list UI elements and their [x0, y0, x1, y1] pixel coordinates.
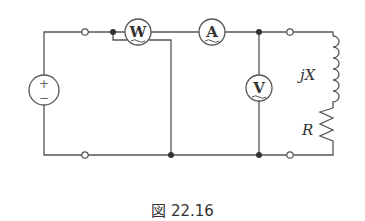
- inductor-jx: [333, 36, 339, 108]
- source-plus: +: [39, 77, 49, 91]
- ammeter-letter: A: [205, 23, 218, 41]
- ammeter: A: [199, 19, 225, 45]
- source-minus: −: [39, 91, 49, 105]
- resistor-r: [320, 108, 333, 145]
- junction-dot: [110, 29, 116, 35]
- junction-dot: [256, 29, 262, 35]
- voltage-source: + −: [29, 75, 59, 105]
- terminal: [82, 29, 88, 35]
- circuit-diagram: + − W A V jX R: [0, 0, 365, 221]
- wattmeter-voltage-branch: [113, 32, 171, 155]
- junction-dot: [168, 152, 174, 158]
- wattmeter-letter: W: [129, 23, 148, 41]
- voltmeter-letter: V: [252, 79, 265, 97]
- inductor-label: jX: [297, 66, 317, 84]
- terminal: [287, 29, 293, 35]
- wattmeter: W: [125, 19, 151, 45]
- voltmeter: V: [246, 75, 272, 101]
- figure-caption: 図 22.16: [0, 199, 365, 220]
- junction-dot: [256, 152, 262, 158]
- resistor-label: R: [301, 121, 313, 139]
- terminal: [287, 152, 293, 158]
- terminal: [82, 152, 88, 158]
